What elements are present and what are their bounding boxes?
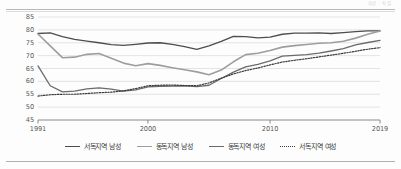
series-line-3 bbox=[38, 40, 380, 92]
legend-label: 서독지역 남성 bbox=[84, 141, 121, 151]
legend-item-4[interactable]: 서독지역 여성 bbox=[280, 141, 336, 151]
top-divider bbox=[6, 9, 395, 10]
legend-item-2[interactable]: 동독지역 남성 bbox=[137, 141, 193, 151]
x-tick-label: 2019 bbox=[372, 125, 388, 133]
legend-line-swatch bbox=[65, 146, 80, 147]
x-tick-label: 2010 bbox=[262, 125, 278, 133]
legend-item-3[interactable]: 동독지역 여성 bbox=[209, 141, 265, 151]
chart-legend: 서독지역 남성동독지역 남성동독지역 여성서독지역 여성 bbox=[0, 141, 401, 151]
y-tick-label: 55 bbox=[18, 90, 34, 98]
y-tick-label: 60 bbox=[18, 77, 34, 85]
plot-svg bbox=[38, 17, 380, 120]
y-tick-label: 80 bbox=[18, 26, 34, 34]
y-tick-label: 45 bbox=[18, 116, 34, 124]
y-tick-label: 75 bbox=[18, 39, 34, 47]
y-tick-label: 50 bbox=[18, 103, 34, 111]
y-tick-label: 85 bbox=[18, 13, 34, 21]
x-tick-label: 2000 bbox=[140, 125, 156, 133]
legend-item-1[interactable]: 서독지역 남성 bbox=[65, 141, 121, 151]
legend-line-swatch bbox=[209, 146, 224, 147]
legend-line-swatch bbox=[280, 146, 295, 147]
x-tick-label: 1991 bbox=[30, 125, 46, 133]
y-tick-label: 65 bbox=[18, 65, 34, 73]
legend-line-swatch bbox=[137, 146, 152, 147]
legend-label: 동독지역 여성 bbox=[228, 141, 265, 151]
plot-area bbox=[38, 17, 380, 120]
header-note: 자료 : 독일 bbox=[368, 0, 391, 6]
bottom-divider bbox=[6, 161, 395, 162]
legend-label: 동독지역 남성 bbox=[156, 141, 193, 151]
top-divider-secondary bbox=[6, 11, 395, 12]
legend-label: 서독지역 여성 bbox=[299, 141, 336, 151]
y-tick-label: 70 bbox=[18, 52, 34, 60]
chart-container: 자료 : 독일 455055606570758085 1991200020102… bbox=[0, 0, 401, 169]
series-line-1 bbox=[38, 31, 380, 50]
series-line-2 bbox=[38, 31, 380, 75]
